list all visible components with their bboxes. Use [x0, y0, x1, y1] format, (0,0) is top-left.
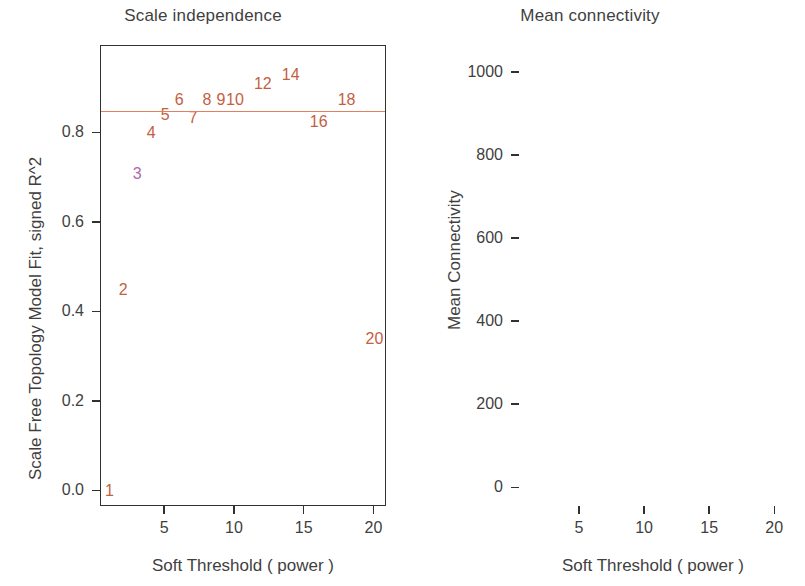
y-axis-tick-label: 0.6 [22, 213, 84, 231]
data-point-label: 2 [119, 282, 128, 298]
y-axis-tick-label: 0.8 [22, 123, 84, 141]
wgcna-soft-threshold-figure: Scale independence Scale Free Topology M… [0, 0, 805, 586]
scale-independence-title: Scale independence [8, 6, 398, 26]
mean-connectivity-x-axis-title: Soft Threshold ( power ) [562, 556, 744, 576]
data-point-label: 9 [217, 92, 226, 108]
x-axis-tick-label: 20 [365, 519, 383, 537]
scale-independence-x-axis-title: Soft Threshold ( power ) [152, 556, 334, 576]
x-axis-tick-mark [578, 506, 580, 514]
y-axis-tick-label: 0.2 [22, 392, 84, 410]
x-axis-tick-label: 20 [765, 519, 783, 537]
scale-independence-plot-area: 123456789101214161820 [101, 46, 385, 505]
x-axis-tick-label: 10 [225, 519, 243, 537]
data-point-label: 5 [161, 107, 170, 123]
data-point-label: 8 [203, 92, 212, 108]
data-point-label: 12 [254, 76, 272, 92]
mean-connectivity-title: Mean connectivity [410, 6, 770, 26]
data-point-label: 3 [133, 166, 142, 182]
scale-independence-plot-frame: 123456789101214161820 [100, 45, 386, 506]
x-axis-tick-label: 15 [295, 519, 313, 537]
y-axis-tick-mark [92, 311, 100, 313]
y-axis-tick-mark [92, 490, 100, 492]
x-axis-tick-mark [303, 506, 305, 514]
y-axis-tick-label: 400 [441, 312, 503, 330]
data-point-label: 14 [282, 67, 300, 83]
y-axis-tick-mark [511, 71, 519, 73]
y-axis-tick-label: 800 [441, 146, 503, 164]
data-point-label: 1 [105, 483, 114, 499]
y-axis-tick-mark [92, 132, 100, 134]
data-point-label: 4 [147, 125, 156, 141]
y-axis-tick-label: 0 [441, 478, 503, 496]
y-axis-tick-mark [511, 154, 519, 156]
data-point-label: 10 [226, 92, 244, 108]
y-axis-tick-label: 1000 [441, 63, 503, 81]
x-axis-tick-label: 5 [160, 519, 169, 537]
y-axis-tick-mark [511, 237, 519, 239]
x-axis-tick-label: 15 [700, 519, 718, 537]
x-axis-tick-label: 5 [574, 519, 583, 537]
mean-connectivity-panel: Mean connectivity Mean Connectivity 1234… [410, 0, 805, 586]
data-point-label: 6 [175, 92, 184, 108]
x-axis-tick-mark [643, 506, 645, 514]
y-axis-tick-label: 600 [441, 229, 503, 247]
y-axis-tick-label: 0.4 [22, 302, 84, 320]
x-axis-tick-mark [373, 506, 375, 514]
x-axis-tick-mark [233, 506, 235, 514]
scale-independence-panel: Scale independence Scale Free Topology M… [0, 0, 410, 586]
y-axis-tick-mark [92, 221, 100, 223]
x-axis-tick-mark [708, 506, 710, 514]
x-axis-tick-label: 10 [635, 519, 653, 537]
x-axis-tick-mark [163, 506, 165, 514]
y-axis-tick-mark [511, 403, 519, 405]
y-axis-tick-mark [511, 487, 519, 489]
y-axis-tick-label: 200 [441, 395, 503, 413]
r2-threshold-line [101, 111, 385, 113]
data-point-label: 20 [366, 331, 384, 347]
data-point-label: 16 [310, 114, 328, 130]
y-axis-tick-mark [92, 400, 100, 402]
x-axis-tick-mark [774, 506, 776, 514]
y-axis-tick-mark [511, 320, 519, 322]
y-axis-tick-label: 0.0 [22, 481, 84, 499]
mean-connectivity-y-axis-title: Mean Connectivity [445, 190, 465, 330]
data-point-label: 18 [338, 92, 356, 108]
